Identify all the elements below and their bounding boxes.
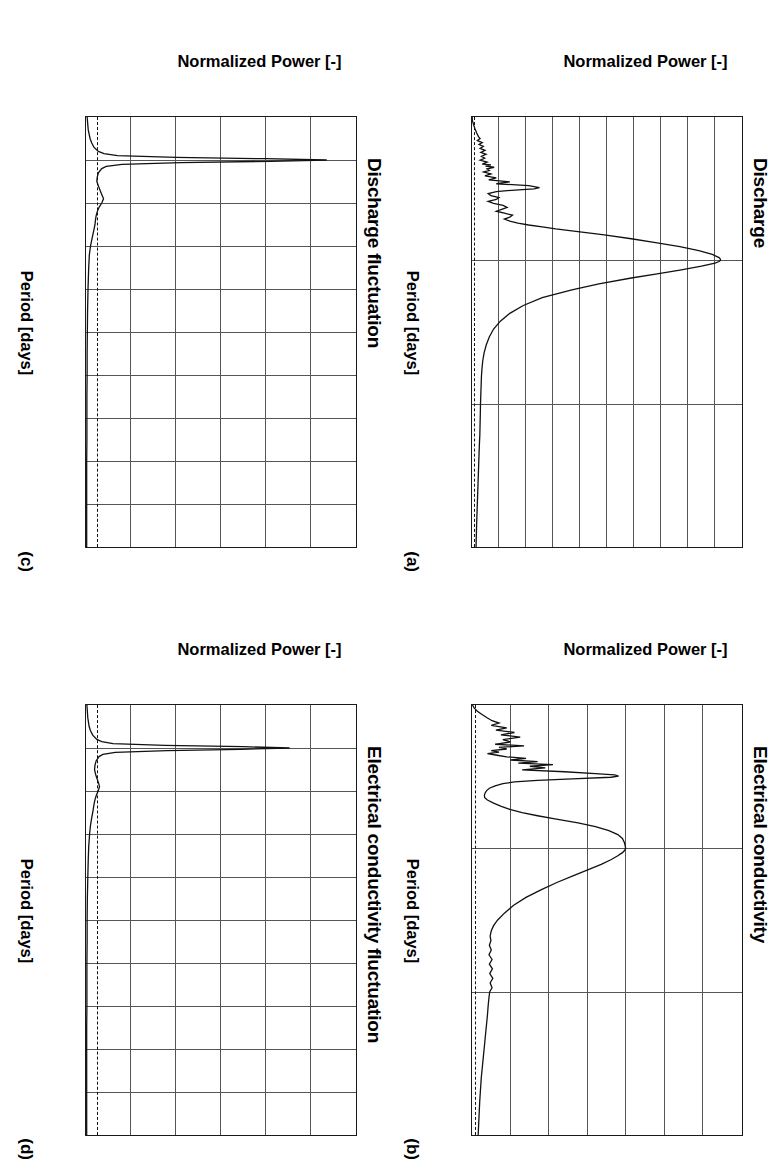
x-axis-tick	[85, 547, 86, 548]
panel-a-letter: (a)	[402, 551, 422, 572]
y-axis-minor-tick	[565, 116, 566, 117]
x-axis-tick	[471, 547, 472, 548]
panel-a-plot-area: 0100020003000400050006000700080009000100…	[471, 116, 743, 548]
x-axis-tick	[471, 848, 472, 849]
panel-d-y-axis-label: Normalized Power [-]	[155, 640, 365, 659]
y-axis-minor-tick	[152, 116, 153, 117]
spectrum-curve	[86, 705, 356, 1135]
x-axis-tick	[471, 1135, 472, 1136]
spectrum-curve	[86, 117, 356, 547]
y-axis-minor-tick	[287, 116, 288, 117]
y-axis-tick	[687, 116, 688, 117]
y-axis-tick	[663, 704, 664, 705]
x-axis-tick	[85, 705, 86, 706]
x-axis-tick	[85, 203, 86, 204]
y-axis-minor-tick	[152, 704, 153, 705]
y-axis-tick	[220, 116, 221, 117]
y-axis-minor-tick	[242, 704, 243, 705]
y-axis-tick	[175, 704, 176, 705]
x-axis-tick	[85, 1006, 86, 1007]
x-axis-tick	[85, 418, 86, 419]
y-axis-minor-tick	[287, 704, 288, 705]
x-axis-tick	[85, 461, 86, 462]
x-axis-tick	[471, 404, 472, 405]
panel-d-letter: (d)	[16, 1138, 36, 1160]
y-axis-minor-tick	[721, 704, 722, 705]
spectral-analysis-figure: Discharge Normalized Power [-] 010002000…	[0, 0, 779, 1174]
x-axis-tick	[85, 117, 86, 118]
y-axis-minor-tick	[242, 116, 243, 117]
panel-c-discharge-fluctuation: Discharge fluctuation Normalized Power […	[15, 8, 387, 578]
x-axis-tick	[471, 117, 472, 118]
panel-d-ec-fluctuation: Electrical conductivity fluctuation Norm…	[15, 596, 387, 1166]
panel-c-letter: (c)	[16, 551, 36, 572]
x-axis-tick	[85, 1135, 86, 1136]
y-axis-minor-tick	[727, 116, 728, 117]
panel-c-title: Discharge fluctuation	[363, 158, 385, 348]
y-axis-minor-tick	[592, 116, 593, 117]
y-axis-minor-tick	[484, 116, 485, 117]
x-axis-tick	[85, 375, 86, 376]
x-axis-tick	[85, 1092, 86, 1093]
y-axis-tick	[579, 116, 580, 117]
y-axis-tick	[355, 116, 356, 117]
panel-a-discharge: Discharge Normalized Power [-] 010002000…	[401, 8, 773, 578]
y-axis-minor-tick	[673, 116, 674, 117]
y-axis-tick	[552, 116, 553, 117]
y-axis-tick	[606, 116, 607, 117]
y-axis-tick	[586, 704, 587, 705]
y-axis-tick	[130, 704, 131, 705]
y-axis-minor-tick	[683, 704, 684, 705]
figure-rotation-wrapper: Discharge Normalized Power [-] 010002000…	[0, 0, 779, 1174]
panel-b-x-axis-label: Period [days]	[403, 696, 422, 1126]
y-axis-tick	[633, 116, 634, 117]
y-axis-tick	[175, 116, 176, 117]
y-axis-minor-tick	[197, 704, 198, 705]
x-axis-tick	[85, 1049, 86, 1050]
panel-c-y-axis-label: Normalized Power [-]	[155, 52, 365, 71]
x-axis-tick	[471, 260, 472, 261]
y-axis-tick	[220, 704, 221, 705]
y-axis-tick	[265, 704, 266, 705]
y-axis-minor-tick	[332, 704, 333, 705]
y-axis-tick	[525, 116, 526, 117]
x-axis-tick	[85, 504, 86, 505]
panel-a-title: Discharge	[749, 158, 771, 248]
y-axis-minor-tick	[528, 704, 529, 705]
y-axis-tick	[702, 704, 703, 705]
panel-a-y-axis-label: Normalized Power [-]	[541, 52, 751, 71]
panel-b-title: Electrical conductivity	[749, 746, 771, 943]
y-axis-minor-tick	[490, 704, 491, 705]
y-axis-tick	[660, 116, 661, 117]
y-axis-minor-tick	[700, 116, 701, 117]
x-axis-tick	[85, 791, 86, 792]
x-axis-tick	[471, 992, 472, 993]
x-axis-tick	[85, 246, 86, 247]
x-axis-tick	[85, 289, 86, 290]
y-axis-minor-tick	[538, 116, 539, 117]
panel-d-title: Electrical conductivity fluctuation	[363, 746, 385, 1043]
panel-b-letter: (b)	[402, 1138, 422, 1160]
y-axis-minor-tick	[332, 116, 333, 117]
x-axis-tick	[85, 877, 86, 878]
y-axis-tick	[714, 116, 715, 117]
x-axis-tick	[471, 705, 472, 706]
y-axis-minor-tick	[197, 116, 198, 117]
x-axis-tick	[85, 834, 86, 835]
y-axis-tick	[741, 704, 742, 705]
y-axis-tick	[741, 116, 742, 117]
y-axis-tick	[310, 704, 311, 705]
y-axis-tick	[498, 116, 499, 117]
y-axis-minor-tick	[619, 116, 620, 117]
x-axis-tick	[85, 920, 86, 921]
panel-b-plot-area: 0100020003000400050006000700003657301095	[471, 704, 743, 1136]
panel-c-x-axis-label: Period [days]	[17, 108, 36, 538]
y-axis-minor-tick	[107, 116, 108, 117]
panel-b-y-axis-label: Normalized Power [-]	[541, 640, 751, 659]
spectrum-curve	[472, 117, 742, 547]
panel-d-plot-area: 020040060080010001200012345678910	[85, 704, 357, 1136]
spectrum-curve	[472, 705, 742, 1135]
y-axis-minor-tick	[646, 116, 647, 117]
x-axis-tick	[85, 332, 86, 333]
x-axis-tick	[85, 963, 86, 964]
